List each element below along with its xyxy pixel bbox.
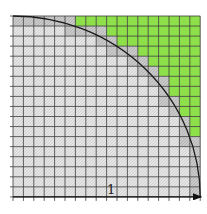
grid-cell-inside bbox=[13, 147, 23, 157]
grid-cell-inside bbox=[23, 106, 33, 116]
grid-cell-inside bbox=[55, 26, 65, 36]
grid-cell-inside bbox=[96, 76, 106, 86]
grid-cell-inside bbox=[55, 147, 65, 157]
grid-cell-inside bbox=[13, 187, 23, 197]
grid-cell-outside bbox=[127, 16, 137, 26]
grid-cell-inside bbox=[148, 86, 158, 96]
grid-cell-inside bbox=[107, 117, 117, 127]
grid-cell-inside bbox=[23, 187, 33, 197]
grid-cell-inside bbox=[34, 177, 44, 187]
grid-cell-inside bbox=[159, 167, 169, 177]
grid-cell-inside bbox=[96, 66, 106, 76]
grid-cell-inside bbox=[55, 106, 65, 116]
grid-cell-inside bbox=[86, 106, 96, 116]
grid-cell-outside bbox=[107, 16, 117, 26]
grid-cell-boundary bbox=[65, 26, 75, 36]
grid-cell-inside bbox=[13, 167, 23, 177]
grid-cell-inside bbox=[23, 177, 33, 187]
grid-cell-inside bbox=[96, 117, 106, 127]
grid-cell-inside bbox=[107, 137, 117, 147]
grid-cell-inside bbox=[86, 167, 96, 177]
grid-cell-inside bbox=[138, 157, 148, 167]
grid-cell-inside bbox=[65, 66, 75, 76]
grid-cell-inside bbox=[127, 157, 137, 167]
grid-cell-outside bbox=[159, 26, 169, 36]
grid-cell-inside bbox=[23, 86, 33, 96]
grid-cell-inside bbox=[13, 86, 23, 96]
grid-cell-boundary bbox=[44, 16, 54, 26]
grid-cell-inside bbox=[23, 46, 33, 56]
grid-cell-outside bbox=[169, 46, 179, 56]
grid-cell-inside bbox=[117, 56, 127, 66]
grid-cell-outside bbox=[138, 16, 148, 26]
grid-cell-inside bbox=[107, 66, 117, 76]
grid-cell-outside bbox=[190, 66, 200, 76]
grid-cell-inside bbox=[107, 76, 117, 86]
grid-cell-inside bbox=[86, 96, 96, 106]
grid-cell-inside bbox=[148, 106, 158, 116]
grid-cell-outside bbox=[190, 117, 200, 127]
grid-cell-inside bbox=[55, 96, 65, 106]
grid-cell-outside bbox=[169, 16, 179, 26]
grid-cell-inside bbox=[65, 46, 75, 56]
grid-cell-inside bbox=[65, 177, 75, 187]
grid-cell-inside bbox=[169, 177, 179, 187]
grid-cell-inside bbox=[55, 117, 65, 127]
grid-cell-inside bbox=[127, 167, 137, 177]
grid-cell-outside bbox=[169, 66, 179, 76]
grid-cell-inside bbox=[34, 86, 44, 96]
grid-cell-inside bbox=[86, 137, 96, 147]
grid-cell-inside bbox=[179, 187, 189, 197]
grid-cell-inside bbox=[169, 137, 179, 147]
grid-cell-inside bbox=[148, 137, 158, 147]
grid-cell-inside bbox=[44, 167, 54, 177]
grid-cell-inside bbox=[86, 76, 96, 86]
grid-cell-inside bbox=[86, 66, 96, 76]
grid-cell-outside bbox=[159, 56, 169, 66]
grid-cell-inside bbox=[127, 106, 137, 116]
grid-cell-boundary bbox=[190, 157, 200, 167]
grid-cell-inside bbox=[86, 56, 96, 66]
axis-label-one: 1 bbox=[107, 183, 115, 196]
grid-cell-inside bbox=[127, 117, 137, 127]
grid-cell-inside bbox=[44, 127, 54, 137]
grid-cell-inside bbox=[44, 96, 54, 106]
grid-cell-inside bbox=[159, 127, 169, 137]
grid-cell-inside bbox=[65, 36, 75, 46]
grid-cell-inside bbox=[138, 187, 148, 197]
grid-cell-inside bbox=[86, 36, 96, 46]
grid-cell-boundary bbox=[138, 66, 148, 76]
grid-cell-inside bbox=[23, 117, 33, 127]
grid-cell-inside bbox=[34, 187, 44, 197]
grid-cell-outside bbox=[179, 16, 189, 26]
grid-cell-inside bbox=[107, 106, 117, 116]
grid-cell-inside bbox=[75, 147, 85, 157]
grid-cell-inside bbox=[34, 66, 44, 76]
grid-cell-inside bbox=[44, 46, 54, 56]
grid-cell-inside bbox=[23, 127, 33, 137]
grid-cell-inside bbox=[148, 147, 158, 157]
grid-cell-outside bbox=[86, 16, 96, 26]
grid-cell-boundary bbox=[107, 46, 117, 56]
grid-cell-inside bbox=[34, 96, 44, 106]
grid-cell-inside bbox=[138, 177, 148, 187]
grid-cell-inside bbox=[44, 56, 54, 66]
grid-cell-inside bbox=[44, 147, 54, 157]
grid-cell-inside bbox=[96, 46, 106, 56]
grid-cell-inside bbox=[75, 167, 85, 177]
grid-cell-inside bbox=[23, 26, 33, 36]
grid-cell-outside bbox=[190, 26, 200, 36]
grid-cell-inside bbox=[13, 26, 23, 36]
grid-cell-boundary bbox=[179, 137, 189, 147]
grid-cell-inside bbox=[117, 127, 127, 137]
grid-cell-inside bbox=[117, 66, 127, 76]
grid-cell-outside bbox=[179, 66, 189, 76]
grid-cell-outside bbox=[190, 46, 200, 56]
grid-cell-outside bbox=[169, 26, 179, 36]
grid-cell-outside bbox=[179, 36, 189, 46]
grid-cell-inside bbox=[148, 167, 158, 177]
grid-cell-outside bbox=[107, 26, 117, 36]
grid-cell-inside bbox=[55, 76, 65, 86]
grid-cell-inside bbox=[34, 137, 44, 147]
grid-cell-outside bbox=[117, 16, 127, 26]
